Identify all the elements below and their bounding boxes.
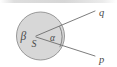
figure-canvas: β S α q p (0, 0, 117, 67)
geometry-figure: β S α q p (0, 0, 117, 67)
ray-q-label: q (99, 7, 104, 18)
beta-label: β (20, 30, 27, 43)
ray-p-label: p (98, 54, 104, 65)
vertex-s-label: S (32, 38, 37, 49)
